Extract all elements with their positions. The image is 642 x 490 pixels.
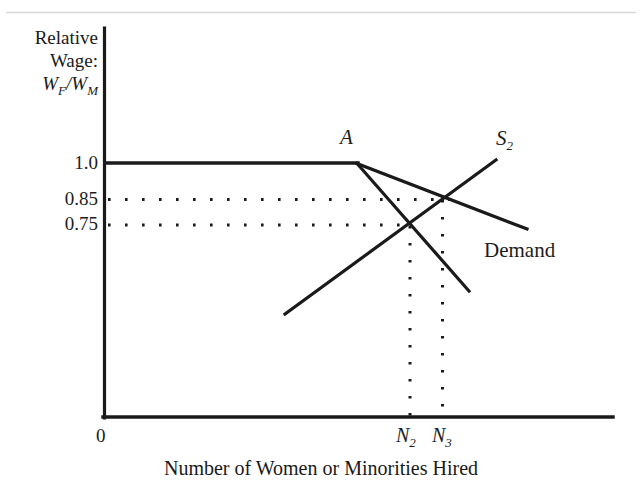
origin-label: 0: [96, 425, 106, 447]
x-tick-label-n2: N2: [396, 424, 416, 451]
x-axis-caption: Number of Women or Minorities Hired: [0, 457, 642, 480]
x-tick-label-n3-text: N: [432, 424, 445, 446]
y-axis-title-line-2: Wage:: [6, 49, 98, 72]
demand-curve-label: Demand: [484, 238, 555, 263]
supply-curve-s2: [285, 160, 496, 314]
w-female-symbol: W: [42, 73, 58, 94]
supply-curve-label-text: S: [496, 126, 507, 150]
discrimination-wage-line: [357, 164, 469, 292]
y-tick-label-1: 1.0: [14, 152, 98, 174]
w-male-subscript: M: [87, 83, 98, 98]
y-axis-title-ratio: WF/WM: [6, 72, 98, 102]
y-tick-label-085: 0.85: [14, 188, 98, 210]
figure-container: Relative Wage: WF/WM 1.0 0.85 0.75 A S2 …: [0, 0, 642, 490]
point-a-label: A: [340, 125, 353, 150]
y-axis-title: Relative Wage: WF/WM: [6, 26, 98, 102]
w-male-symbol: W: [71, 73, 87, 94]
w-female-subscript: F: [58, 83, 66, 98]
supply-curve-label-subscript: 2: [507, 138, 514, 153]
x-tick-label-n3-subscript: 3: [445, 435, 452, 450]
y-tick-label-075: 0.75: [14, 213, 98, 235]
x-tick-label-n2-subscript: 2: [409, 435, 416, 450]
y-axis-title-line-1: Relative: [6, 26, 98, 49]
supply-curve-label: S2: [496, 126, 513, 154]
x-tick-label-n3: N3: [432, 424, 452, 451]
x-tick-label-n2-text: N: [396, 424, 409, 446]
